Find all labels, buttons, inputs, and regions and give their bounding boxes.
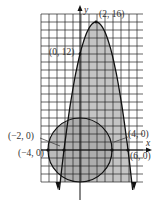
y-axis-label: y [83,5,89,15]
circle-left-label: (−4, 0) [18,148,44,159]
y-axis-arrow-icon [78,5,83,11]
y-intercept-label: (0, 12) [49,47,74,58]
graph-figure: y x (2, 16) (0, 12) (−2, 0) (−4, 0) (4, … [0,0,158,212]
parabola-right-root-label: (6, 0) [130,151,151,162]
vertex-label: (2, 16) [99,9,124,20]
parabola-left-root-label: (−2, 0) [8,131,34,142]
circle-right-label: (4, 0) [128,129,149,140]
x-axis-label: x [145,138,151,148]
